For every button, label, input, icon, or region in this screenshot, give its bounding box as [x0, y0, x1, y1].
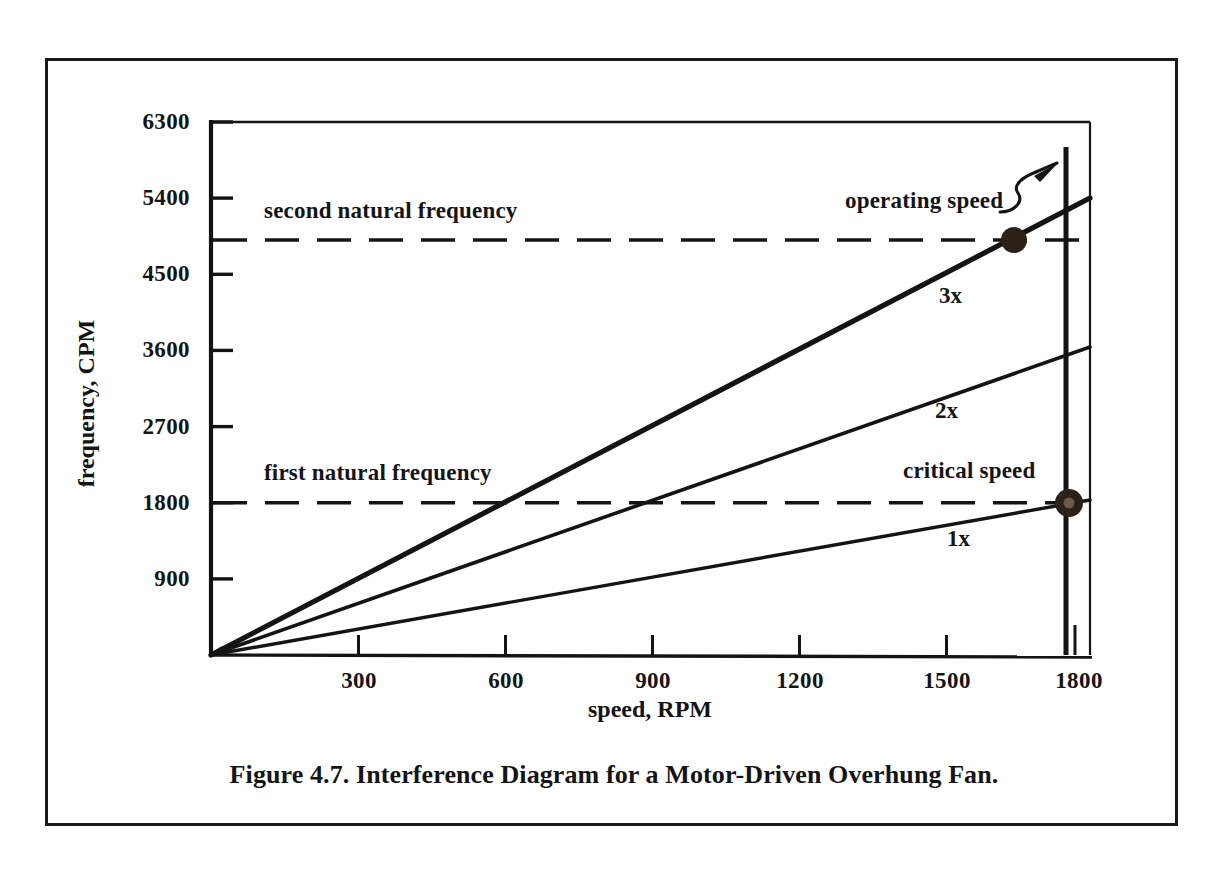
y-tick-label-3600: 3600: [100, 337, 190, 363]
y-axis-ticks: [211, 122, 233, 579]
order-line-1x: [211, 500, 1090, 655]
x-axis-title: speed, RPM: [588, 696, 712, 723]
x-axis-ticks: [359, 625, 1076, 655]
y-tick-label-5400: 5400: [100, 185, 190, 211]
operating-speed-label: operating speed: [845, 188, 1003, 214]
x-tick-label-300: 300: [341, 668, 377, 694]
x-tick-label-1200: 1200: [776, 668, 824, 694]
y-tick-label-2700: 2700: [100, 414, 190, 440]
series-label-2x: 2x: [935, 398, 958, 424]
y-axis: [211, 120, 233, 657]
second-natural-frequency-label: second natural frequency: [264, 198, 518, 224]
first-natural-frequency-label: first natural frequency: [264, 460, 492, 486]
figure-caption: Figure 4.7. Interference Diagram for a M…: [230, 760, 999, 790]
order-line-3x: [211, 198, 1090, 655]
critical-speed-label: critical speed: [903, 458, 1035, 484]
order-lines: [211, 198, 1090, 655]
x-axis: [209, 625, 1092, 657]
y-tick-label-900: 900: [100, 566, 190, 592]
series-label-3x: 3x: [939, 283, 962, 309]
x-tick-label-1500: 1500: [923, 668, 971, 694]
operating-speed-marker: [1001, 227, 1027, 253]
y-tick-label-6300: 6300: [100, 109, 190, 135]
x-tick-label-900: 900: [635, 668, 671, 694]
x-tick-label-600: 600: [488, 668, 524, 694]
y-axis-title: frequency, CPM: [73, 320, 100, 488]
operating-speed-arrow-icon: [1000, 163, 1058, 212]
x-tick-label-1800: 1800: [1055, 668, 1103, 694]
y-tick-label-1800: 1800: [100, 490, 190, 516]
series-label-1x: 1x: [947, 526, 970, 552]
y-tick-label-4500: 4500: [100, 261, 190, 287]
